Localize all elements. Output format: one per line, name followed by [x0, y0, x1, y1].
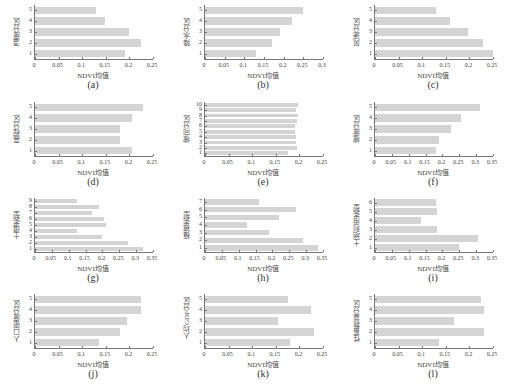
x-tick-label: 0.05 — [222, 159, 233, 165]
y-axis-label: 高程分区 — [12, 115, 22, 143]
x-tick-label: 0 — [33, 62, 36, 68]
x-tick-label: 0.25 — [453, 159, 464, 165]
y-tick-mark — [375, 310, 377, 311]
y-tick-mark — [205, 126, 207, 127]
bar-7 — [205, 119, 297, 123]
x-tick-mark — [375, 57, 376, 59]
bar-1 — [35, 50, 125, 58]
x-tick-label: 0.35 — [487, 159, 498, 165]
plot-area — [204, 102, 323, 157]
bar-4 — [205, 222, 247, 227]
x-tick-mark — [276, 346, 277, 348]
x-tick-label: 0.05 — [218, 62, 229, 68]
x-tick-mark — [153, 250, 154, 252]
x-tick-mark — [205, 154, 206, 156]
y-tick-label: 3 — [22, 125, 32, 131]
bar-6 — [375, 199, 436, 205]
y-tick-label: 4 — [362, 17, 372, 23]
y-tick-mark — [35, 10, 37, 11]
y-tick-mark — [205, 43, 207, 44]
y-tick-mark — [35, 299, 37, 300]
bar-6 — [205, 124, 295, 128]
y-tick-mark — [375, 107, 377, 108]
plot-area — [204, 198, 323, 253]
bar-2 — [205, 146, 297, 150]
y-tick-mark — [35, 32, 37, 33]
bar-4 — [35, 306, 141, 314]
bar-3 — [375, 317, 454, 325]
x-tick-label: 0.2 — [279, 62, 287, 68]
y-tick-label: 3 — [362, 226, 372, 232]
chart-panel-j: 1234500.050.10.150.20.25人口密度分区NDVI均值(j) — [0, 289, 170, 385]
bar-5 — [375, 296, 481, 304]
x-tick-label: 0.15 — [270, 159, 281, 165]
y-tick-mark — [205, 343, 207, 344]
plot-area — [374, 198, 493, 253]
bar-7 — [205, 199, 259, 204]
y-tick-mark — [35, 21, 37, 22]
bar-3 — [35, 317, 127, 325]
x-tick-mark — [252, 154, 253, 156]
x-tick-mark — [59, 154, 60, 156]
x-tick-label: 0 — [203, 159, 206, 165]
panel-caption: (f) — [428, 176, 438, 187]
x-tick-mark — [136, 250, 137, 252]
y-axis-label: 降水分区 — [182, 18, 192, 46]
x-tick-label: 0 — [373, 255, 376, 261]
y-tick-label: 9 — [192, 106, 202, 112]
y-tick-label: 2 — [362, 39, 372, 45]
bar-2 — [375, 235, 478, 241]
x-tick-mark — [459, 154, 460, 156]
y-tick-label: 3 — [362, 28, 372, 34]
bar-3 — [205, 317, 278, 325]
y-tick-mark — [205, 332, 207, 333]
x-tick-label: 0.2 — [268, 255, 276, 261]
y-tick-mark — [375, 151, 377, 152]
y-tick-label: 3 — [192, 229, 202, 235]
x-tick-mark — [392, 250, 393, 252]
x-tick-mark — [323, 154, 324, 156]
y-tick-mark — [35, 321, 37, 322]
bar-4 — [375, 306, 484, 314]
x-tick-mark — [284, 57, 285, 59]
y-tick-label: 5 — [22, 103, 32, 109]
x-tick-mark — [323, 346, 324, 348]
y-tick-label: 3 — [22, 28, 32, 34]
y-tick-label: 1 — [192, 339, 202, 345]
chart-panel-e: 1234567891000.050.10.150.20.25坡向分区NDVI均值… — [170, 97, 340, 193]
y-tick-mark — [35, 201, 37, 202]
x-tick-mark — [289, 250, 290, 252]
x-tick-label: 0.15 — [419, 255, 430, 261]
y-tick-label: 2 — [22, 136, 32, 142]
bar-2 — [35, 241, 128, 245]
y-tick-mark — [375, 332, 377, 333]
x-tick-mark — [375, 346, 376, 348]
x-tick-mark — [252, 346, 253, 348]
x-tick-label: 0.1 — [404, 159, 412, 165]
x-tick-mark — [469, 57, 470, 59]
y-tick-label: 1 — [362, 244, 372, 250]
bar-1 — [205, 339, 290, 347]
bar-5 — [375, 7, 436, 15]
bar-7 — [35, 211, 92, 215]
y-tick-mark — [35, 118, 37, 119]
x-tick-mark — [299, 346, 300, 348]
y-tick-mark — [205, 110, 207, 111]
y-tick-label: 2 — [362, 136, 372, 142]
bar-5 — [205, 296, 288, 304]
y-tick-mark — [375, 248, 377, 249]
bar-10 — [205, 103, 298, 107]
x-tick-label: 0.05 — [392, 62, 403, 68]
x-tick-label: 0.2 — [465, 62, 473, 68]
x-tick-label: 0.3 — [471, 255, 479, 261]
y-tick-label: 5 — [192, 128, 202, 134]
plot-area — [374, 294, 493, 349]
x-tick-label: 0.1 — [240, 62, 248, 68]
bar-3 — [205, 141, 296, 145]
y-tick-label: 3 — [22, 233, 32, 239]
x-tick-mark — [82, 346, 83, 348]
x-tick-label: 0.1 — [77, 62, 85, 68]
x-tick-label: 0 — [203, 255, 206, 261]
x-tick-mark — [106, 57, 107, 59]
y-axis-label: 坡度分区 — [352, 115, 362, 143]
